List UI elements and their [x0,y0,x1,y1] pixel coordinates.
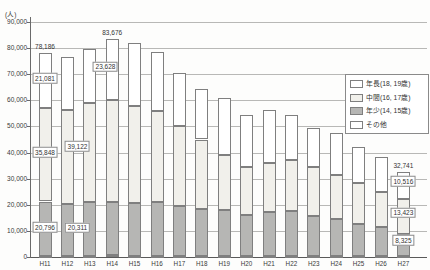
bar-segment-H21 [263,163,276,211]
bar-segment-H25 [352,224,365,256]
bar-segment-H25 [352,147,365,183]
y-axis-tick-label: 90,000 [0,18,27,26]
bar-segment-H20 [240,167,253,215]
x-axis-label: H17 [168,260,190,268]
bar-segment-H17 [173,126,186,206]
legend-item: その他 [350,120,425,130]
segment-value-label: 23,628 [93,62,118,73]
bar-segment-H17 [173,206,186,256]
bar-segment-H21 [263,110,276,164]
legend-item: 中間(16, 17歳) [350,93,425,103]
x-axis-label: H24 [325,260,347,268]
bar-segment-H18 [195,140,208,210]
bar-segment-H25 [352,256,365,258]
bar-segment-H21 [263,256,276,258]
bar-segment-H24 [330,256,343,258]
x-axis-label: H15 [124,260,146,268]
segment-value-label: 21,081 [33,73,58,84]
x-axis-label: H19 [213,260,235,268]
bar-segment-H19 [218,256,231,258]
legend-label: その他 [366,120,387,130]
legend-swatch-icon [350,94,363,102]
bar-segment-H13 [83,256,96,258]
bar-segment-H22 [285,256,298,258]
x-axis-label: H14 [101,260,123,268]
bar-segment-H20 [240,256,253,258]
bar-segment-H19 [218,210,231,256]
bar-segment-H18 [195,256,208,258]
bar-segment-H15 [128,106,141,204]
x-axis-label: H27 [392,260,414,268]
stacked-bar-chart: (人) 90,00080,00070,00060,00050,00040,000… [0,0,430,270]
gridline [30,22,427,23]
x-axis-label: H18 [191,260,213,268]
bar-segment-H12 [61,256,74,258]
bar-segment-H19 [218,155,231,210]
segment-value-label: 35,848 [33,147,58,158]
bar-segment-H16 [151,52,164,111]
y-axis-tick-label: 40,000 [0,149,27,157]
legend-swatch-icon [350,121,363,129]
bar-segment-H14 [106,255,119,257]
x-axis-label: H11 [34,260,56,268]
legend-item: 年長(18, 19歳) [350,79,425,89]
bar-segment-H17 [173,256,186,258]
segment-value-label: 20,311 [65,222,89,233]
bar-segment-H14 [106,100,119,202]
segment-value-label: 13,423 [391,208,416,219]
bar-segment-H13 [83,49,96,103]
bar-segment-H14 [106,202,119,255]
legend: 年長(18, 19歳)中間(16, 17歳)年少(14, 15歳)その他 [345,74,429,134]
x-axis-label: H12 [56,260,78,268]
bar-segment-H21 [263,212,276,256]
bar-segment-H24 [330,133,343,175]
bar-segment-H23 [307,256,320,258]
legend-label: 年長(18, 19歳) [366,79,410,89]
bar-segment-H16 [151,202,164,256]
x-axis-label: H22 [280,260,302,268]
x-axis-label: H20 [236,260,258,268]
bar-segment-H20 [240,215,253,256]
x-axis-label: H25 [348,260,370,268]
bar-total-label: 32,741 [385,162,421,170]
bar-segment-H19 [218,98,231,155]
bar-total-label: 83,676 [94,29,130,37]
bar-segment-H18 [195,89,208,140]
bar-segment-H17 [173,73,186,127]
bar-segment-H22 [285,211,298,256]
x-axis-label: H16 [146,260,168,268]
bar-segment-H15 [128,256,141,258]
segment-value-label: 20,796 [33,222,58,233]
y-axis-tick-label: 60,000 [0,96,27,104]
legend-swatch-icon [350,80,363,88]
y-axis-tick-label: 30,000 [0,175,27,183]
segment-value-label: 10,516 [391,176,416,187]
legend-label: 中間(16, 17歳) [366,93,410,103]
bar-segment-H18 [195,209,208,256]
segment-value-label: 8,325 [393,235,414,246]
y-axis-tick-label: 10,000 [0,227,27,235]
bar-segment-H23 [307,167,320,216]
legend-swatch-icon [350,107,363,115]
y-axis-line [30,17,31,258]
x-axis-label: H26 [370,260,392,268]
bar-segment-H12 [61,110,74,204]
bar-segment-H13 [83,103,96,201]
bar-segment-H27 [397,256,410,258]
bar-segment-H24 [330,175,343,219]
x-axis-label: H13 [79,260,101,268]
bar-segment-H12 [61,57,74,110]
bar-segment-H16 [151,111,164,202]
bar-segment-H26 [375,256,388,258]
bar-segment-H24 [330,219,343,256]
segment-value-label: 39,122 [65,141,90,152]
bar-segment-H15 [128,43,141,106]
x-axis-label: H23 [303,260,325,268]
legend-label: 年少(14, 15歳) [366,106,410,116]
bar-segment-H23 [307,216,320,256]
bar-segment-H26 [375,192,388,228]
y-axis-tick-label: 20,000 [0,201,27,209]
y-axis-tick-label: 70,000 [0,70,27,78]
bar-segment-H23 [307,128,320,167]
bar-segment-H25 [352,183,365,224]
